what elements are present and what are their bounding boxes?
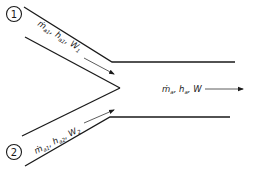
mixing-diagram: 1 2 ṁa1, ha1, W1 ṁa1, ha2, W2 ṁa, ha, W <box>0 0 253 181</box>
station-2-marker: 2 <box>7 145 22 160</box>
inlet-2-flow-arrow <box>84 110 114 123</box>
inlet-1-label: ṁa1, ha1, W1 <box>35 18 83 54</box>
inlet-2-label: ṁa1, ha2, W2 <box>32 124 82 157</box>
station-1-marker: 1 <box>7 7 22 22</box>
outlet-label: ṁa, ha, W <box>162 84 202 95</box>
station-1-number: 1 <box>11 9 17 20</box>
station-2-number: 2 <box>11 147 17 158</box>
